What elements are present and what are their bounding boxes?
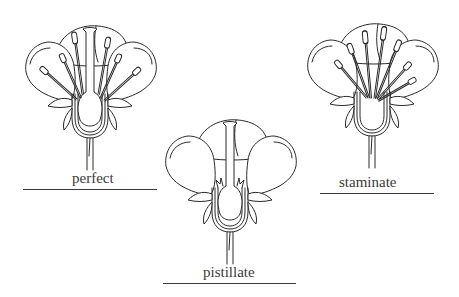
pistillate-label-underline: [163, 283, 296, 284]
perfect-label: perfect: [72, 171, 114, 186]
perfect-label-underline: [23, 189, 157, 190]
staminate-flower-illustration: [308, 24, 439, 168]
staminate-label: staminate: [339, 175, 396, 190]
flower-types-diagram: [0, 0, 459, 297]
pistillate-label: pistillate: [203, 265, 255, 280]
staminate-label-underline: [320, 193, 434, 194]
pistillate-flower-illustration: [166, 120, 297, 264]
perfect-flower-illustration: [26, 26, 157, 170]
